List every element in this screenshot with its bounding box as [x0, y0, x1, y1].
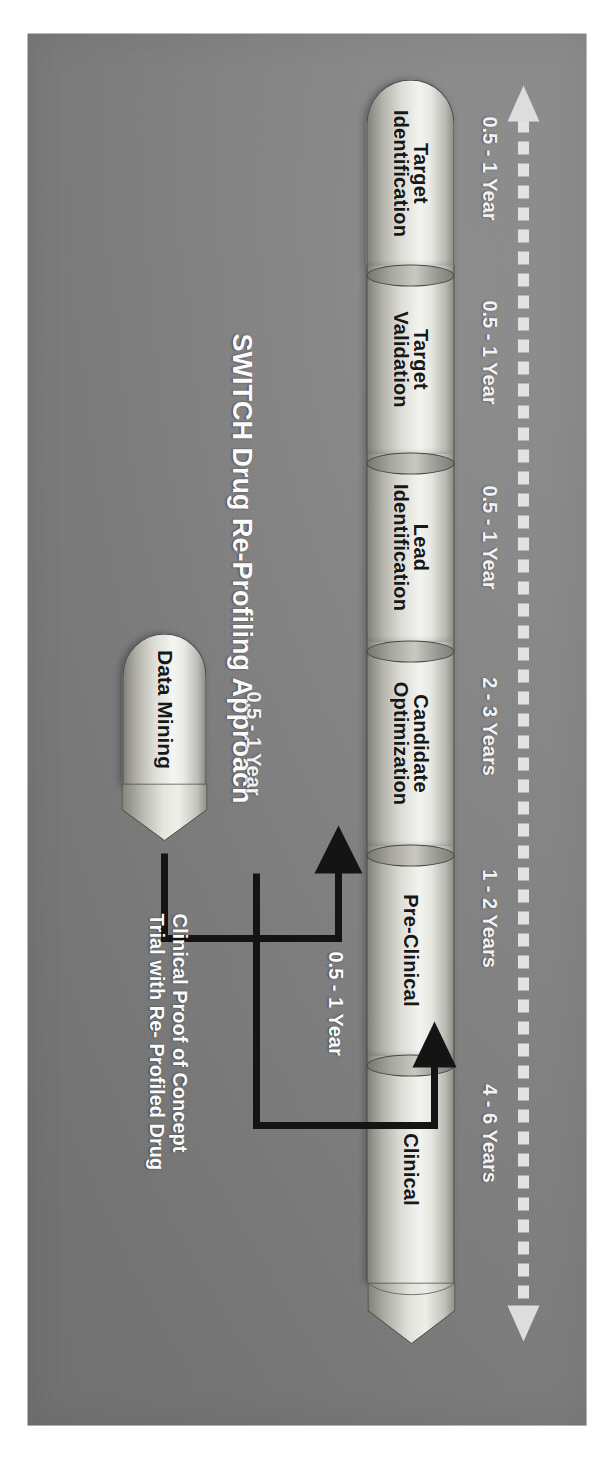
- figure-canvas: 0.5 - 1 Year 0.5 - 1 Year 0.5 - 1 Year 2…: [0, 0, 613, 1458]
- elbow-arrow-icon: [256, 873, 456, 1125]
- shortcut-caption-line1: Clinical Proof of Concept: [167, 913, 190, 1313]
- shortcut-caption: Clinical Proof of Concept Trial with Re-…: [144, 913, 190, 1313]
- shortcut-duration-label: 0.5 - 1 Year: [323, 951, 346, 1055]
- diagram-stage: 0.5 - 1 Year 0.5 - 1 Year 0.5 - 1 Year 2…: [27, 33, 586, 1425]
- shortcut-caption-line2: Trial with Re- Profiled Drug: [144, 913, 167, 1313]
